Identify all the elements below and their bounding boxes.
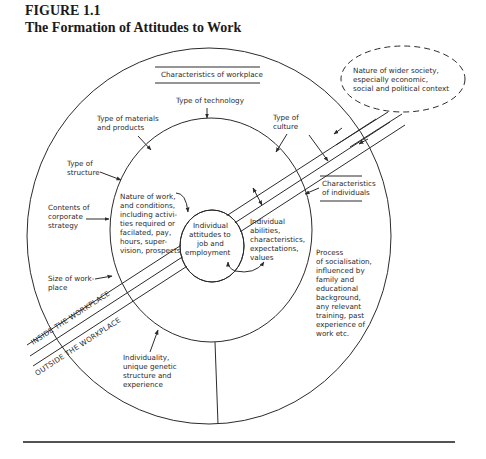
svg-text:educational: educational [316,284,358,293]
socialisation-text: Process of socialisation, influenced by … [316,248,372,338]
materials-label-1: Type of materials [96,114,159,123]
strategy-label-2: corporate [48,212,83,221]
nature-of-work-text: Nature of work, and conditions, includin… [120,192,181,255]
culture-label-1: Type of [272,113,299,122]
structure-label-2: structure [67,168,100,177]
size-label-1: Size of work- [48,274,95,283]
svg-text:attitudes to: attitudes to [189,230,231,239]
svg-text:values: values [250,253,274,262]
svg-text:Individual: Individual [250,217,285,226]
materials-label-2: and products [97,123,144,132]
individuals-heading-1: Characteristics [322,179,376,188]
svg-text:influenced by: influenced by [316,266,365,275]
svg-text:background,: background, [316,293,361,302]
svg-text:ties required or: ties required or [120,219,175,228]
strategy-label-3: strategy [48,221,79,230]
individuality-text: Individuality, unique genetic structure … [123,353,177,389]
svg-text:family and: family and [316,275,354,284]
svg-text:experience: experience [123,380,163,389]
individuals-heading-2: of individuals [322,188,370,197]
structure-label-1: Type of [66,159,93,168]
strategy-label-1: Contents of [48,203,90,212]
inside-workplace-label: INSIDE THE WORKPLACE [29,289,112,347]
bottom-divider-line [215,342,218,424]
svg-text:abilities,: abilities, [250,226,280,235]
svg-text:Individual: Individual [193,221,228,230]
svg-text:unique genetic: unique genetic [123,362,177,371]
svg-text:vision, prospects: vision, prospects [120,246,181,255]
svg-text:training, past: training, past [316,311,364,320]
svg-text:Individuality,: Individuality, [123,353,169,362]
svg-text:any relevant: any relevant [316,302,361,311]
workplace-heading: Characteristics of workplace [161,70,264,79]
svg-text:experience of: experience of [316,320,366,329]
individual-abilities-text: Individual abilities, characteristics, e… [250,217,305,262]
culture-label-2: culture [273,122,299,131]
svg-text:expectations,: expectations, [250,244,299,253]
svg-text:Process: Process [316,248,344,257]
svg-text:work etc.: work etc. [316,329,349,338]
svg-text:facilated, pay,: facilated, pay, [120,228,171,237]
svg-text:job and: job and [196,239,224,248]
size-label-2: place [48,283,68,292]
attitudes-diagram: INSIDE THE WORKPLACE OUTSIDE THE WORKPLA… [0,0,486,459]
svg-text:employment: employment [185,248,231,257]
svg-text:characteristics,: characteristics, [250,235,305,244]
svg-text:hours, super-: hours, super- [120,237,168,246]
svg-text:and conditions,: and conditions, [120,201,175,210]
technology-label: Type of technology [175,96,245,105]
svg-text:Nature of work,: Nature of work, [120,192,176,201]
svg-text:of socialisation,: of socialisation, [316,257,372,266]
svg-text:including activi-: including activi- [120,210,177,219]
svg-text:structure and: structure and [123,371,171,380]
wider-society-line1: Nature of wider society, [353,66,439,75]
wider-society-line3: social and political context [353,84,449,93]
wider-society-line2: especially economic, [353,75,428,84]
